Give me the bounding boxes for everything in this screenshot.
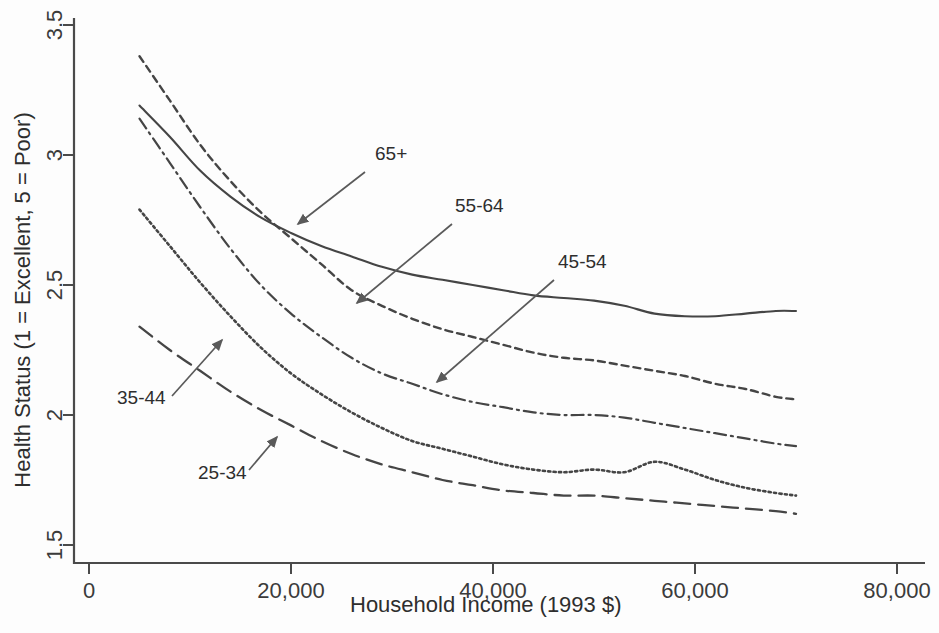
health-status-vs-income-chart: 020,00040,00060,00080,000 1.522.533.5 65… [0, 0, 939, 633]
y-tick-label: 2.5 [42, 270, 67, 301]
series-group [140, 56, 797, 514]
annotation-arrow-45-54 [437, 280, 554, 382]
x-tick-label: 80,000 [863, 578, 930, 603]
x-tick-label: 20,000 [257, 578, 324, 603]
x-axis-title: Household Income (1993 $) [350, 592, 622, 617]
y-tick-label: 3.5 [42, 10, 67, 41]
series-label-65plus: 65+ [375, 143, 407, 164]
annotation-arrow-35-44 [172, 340, 222, 396]
series-label-35-44: 35-44 [117, 387, 166, 408]
annotation-arrow-65plus [298, 172, 365, 224]
series-label-45-54: 45-54 [558, 251, 607, 272]
y-axis-ticks: 1.522.533.5 [42, 10, 74, 561]
x-tick-label: 60,000 [661, 578, 728, 603]
series-label-55-64: 55-64 [455, 195, 504, 216]
x-tick-label: 0 [83, 578, 95, 603]
axes-group: 020,00040,00060,00080,000 1.522.533.5 [42, 10, 931, 603]
y-tick-label: 1.5 [42, 530, 67, 561]
y-tick-label: 2 [42, 409, 67, 421]
series-line-55-64 [140, 56, 797, 399]
series-line-35-44 [140, 210, 797, 496]
chart-container: 020,00040,00060,00080,000 1.522.533.5 65… [0, 0, 939, 633]
series-label-25-34: 25-34 [198, 462, 247, 483]
annotation-arrow-25-34 [249, 437, 277, 470]
y-tick-label: 3 [42, 149, 67, 161]
y-axis-title: Health Status (1 = Excellent, 5 = Poor) [10, 112, 35, 487]
